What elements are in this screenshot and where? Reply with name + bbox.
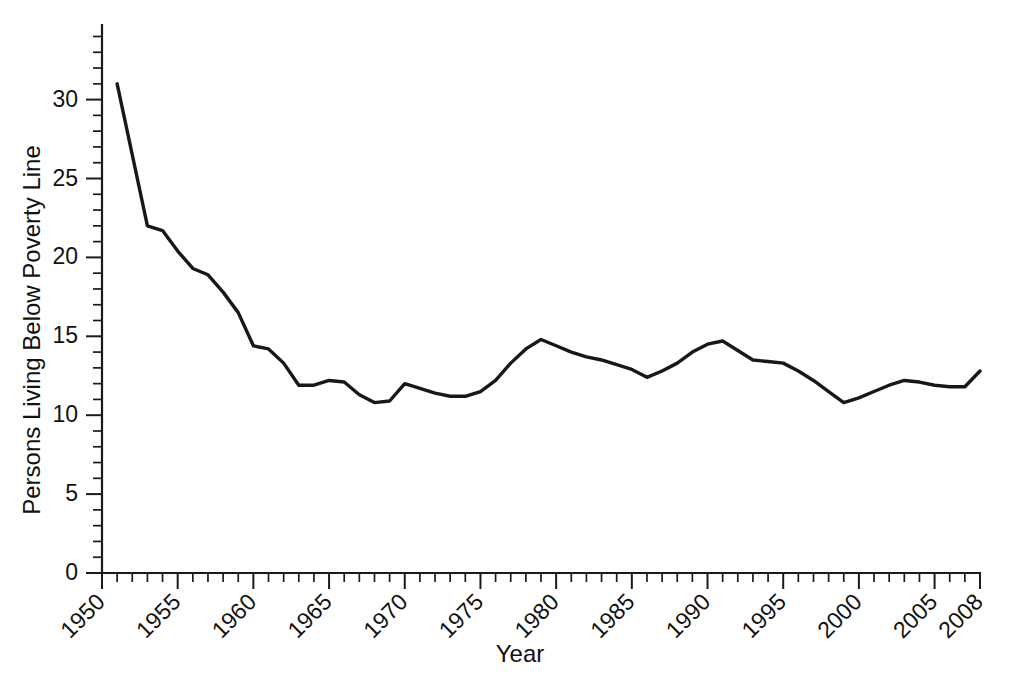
x-tick-label: 1980	[509, 588, 564, 643]
y-tick-label: 25	[52, 165, 78, 191]
chart-page: 051015202530 195019551960196519701975198…	[0, 0, 1018, 684]
y-axis-title: Persons Living Below Poverty Line	[18, 145, 45, 515]
x-tick-label: 1995	[736, 588, 791, 643]
x-tick-label: 1990	[661, 588, 716, 643]
y-tick-label: 10	[52, 401, 78, 427]
poverty-line-chart: 051015202530 195019551960196519701975198…	[0, 0, 1018, 684]
x-tick-label: 1970	[358, 588, 413, 643]
x-axis	[102, 573, 980, 589]
y-tick-label: 5	[65, 480, 78, 506]
y-tick-label: 15	[52, 322, 78, 348]
x-tick-label: 1975	[434, 588, 489, 643]
x-tick-label: 1960	[207, 588, 262, 643]
y-axis-tick-labels: 051015202530	[52, 86, 78, 585]
x-tick-label: 1965	[282, 588, 337, 643]
data-series-line	[117, 84, 980, 403]
x-tick-label: 1955	[131, 588, 186, 643]
x-tick-label: 1985	[585, 588, 640, 643]
x-tick-label: 2008	[933, 588, 988, 643]
chart-plot-area	[117, 84, 980, 403]
y-tick-label: 20	[52, 243, 78, 269]
x-tick-label: 1950	[55, 588, 110, 643]
y-tick-label: 30	[52, 86, 78, 112]
x-axis-title: Year	[496, 640, 545, 667]
x-tick-label: 2005	[888, 588, 943, 643]
y-tick-label: 0	[65, 559, 78, 585]
x-axis-tick-labels: 1950195519601965197019751980198519901995…	[55, 588, 988, 643]
y-axis	[86, 25, 102, 573]
x-tick-label: 2000	[812, 588, 867, 643]
